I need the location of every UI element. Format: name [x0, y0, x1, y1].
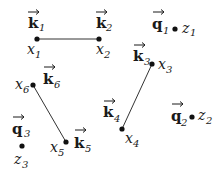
- vector-label-k1: k 1: [28, 10, 45, 34]
- svg-text:5: 5: [58, 147, 64, 158]
- vector-arrow-icon: [13, 115, 24, 120]
- point-dot: [119, 126, 124, 131]
- svg-text:k: k: [28, 14, 39, 32]
- vector-arrow-icon: [44, 65, 55, 70]
- svg-text:2: 2: [180, 117, 187, 128]
- node-x2: k 2 x 2: [96, 10, 112, 61]
- vector-label-k4: k 4: [103, 99, 120, 125]
- point-dot: [172, 26, 177, 31]
- svg-text:3: 3: [166, 64, 172, 75]
- svg-text:k: k: [74, 134, 85, 152]
- svg-text:k: k: [43, 70, 54, 88]
- position-label-x1: x 1: [27, 41, 41, 60]
- svg-text:2: 2: [205, 115, 212, 126]
- svg-text:1: 1: [39, 22, 45, 33]
- vector-label-k5: k 5: [74, 128, 91, 155]
- vector-label-q1: q 1: [152, 10, 169, 37]
- svg-text:2: 2: [103, 49, 110, 60]
- svg-text:z: z: [181, 20, 190, 36]
- svg-text:x: x: [158, 56, 166, 72]
- position-label-z2: z 2: [197, 107, 212, 126]
- position-label-x6: x 6: [15, 76, 30, 95]
- node-x6: k 6 x 6: [15, 65, 61, 96]
- svg-text:6: 6: [23, 84, 30, 95]
- point-dot: [189, 114, 194, 119]
- svg-text:q: q: [12, 120, 23, 138]
- svg-text:k: k: [133, 47, 144, 65]
- point-dot: [34, 36, 39, 41]
- svg-text:4: 4: [113, 113, 120, 124]
- svg-text:x: x: [15, 76, 23, 92]
- svg-text:3: 3: [144, 56, 150, 67]
- vector-label-k3: k 3: [133, 43, 150, 68]
- svg-text:x: x: [125, 130, 133, 146]
- point-dot: [30, 82, 35, 87]
- svg-text:3: 3: [24, 128, 30, 139]
- position-label-x4: x 4: [125, 130, 139, 149]
- node-z3: q 3 z 3: [12, 115, 30, 171]
- edge-x6-x5: [33, 85, 66, 142]
- node-z1: q 1 z 1: [152, 10, 196, 39]
- vector-label-q3: q 3: [12, 115, 30, 140]
- vector-label-k6: k 6: [43, 65, 61, 91]
- svg-text:1: 1: [163, 25, 169, 36]
- svg-text:k: k: [103, 103, 114, 121]
- svg-text:z: z: [13, 151, 22, 167]
- vector-label-k2: k 2: [96, 10, 112, 34]
- node-x1: k 1 x 1: [27, 10, 45, 61]
- point-dot: [63, 139, 68, 144]
- svg-text:4: 4: [132, 138, 139, 149]
- position-label-x3: x 3: [158, 56, 172, 75]
- node-x4: k 4 x 4: [103, 99, 139, 150]
- svg-text:z: z: [197, 107, 206, 123]
- node-x5: k 5 x 5: [50, 128, 91, 159]
- svg-text:1: 1: [35, 49, 41, 60]
- vector-arrow-icon: [75, 128, 86, 133]
- position-label-x5: x 5: [50, 139, 64, 158]
- position-label-z3: z 3: [13, 151, 28, 170]
- svg-text:q: q: [152, 15, 163, 33]
- svg-text:6: 6: [54, 79, 61, 90]
- svg-text:5: 5: [85, 143, 91, 154]
- vector-arrow-icon: [153, 10, 164, 15]
- svg-text:x: x: [50, 139, 58, 155]
- svg-text:x: x: [96, 41, 104, 57]
- edge-x3-x4: [122, 64, 152, 129]
- svg-text:x: x: [27, 41, 35, 57]
- node-z2: q 2 z 2: [171, 102, 212, 129]
- svg-text:3: 3: [22, 159, 28, 170]
- vector-arrow-icon: [172, 102, 183, 107]
- diagram-canvas: k 1 x 1 k 2 x 2 q 1 z 1: [0, 0, 223, 179]
- svg-text:1: 1: [190, 27, 196, 38]
- position-label-x2: x 2: [96, 41, 110, 60]
- position-label-z1: z 1: [181, 20, 196, 38]
- point-dot: [19, 143, 24, 148]
- vector-label-q2: q 2: [171, 102, 187, 129]
- node-x3: k 3 x 3: [133, 43, 172, 76]
- svg-text:2: 2: [105, 22, 112, 33]
